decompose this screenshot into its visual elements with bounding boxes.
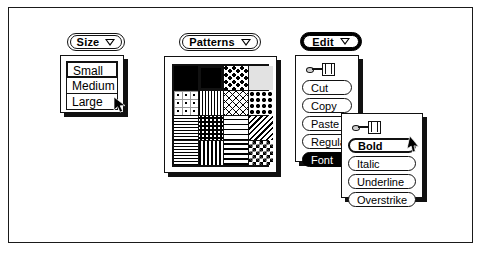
pattern-swatch-crosshatch[interactable]	[174, 116, 198, 140]
edit-menu-item-copy[interactable]: Copy	[302, 98, 352, 113]
pattern-swatch-boxed-dots[interactable]	[174, 91, 198, 115]
font-submenu-item-overstrike[interactable]: Overstrike	[348, 192, 416, 207]
pattern-swatch-solid-black[interactable]	[174, 66, 198, 90]
pattern-swatch-large-dots[interactable]	[249, 91, 273, 115]
pattern-swatch-vertical-lines[interactable]	[199, 91, 223, 115]
size-list-item-large[interactable]: Large	[66, 93, 118, 110]
pattern-swatch-checkerboard[interactable]	[249, 141, 273, 165]
chevron-down-icon	[241, 39, 251, 46]
chevron-down-icon	[340, 38, 350, 45]
pattern-swatch-dashed-texture[interactable]	[199, 141, 223, 165]
pushpin-icon[interactable]	[352, 120, 416, 133]
size-list-item-small[interactable]: Small	[66, 61, 118, 78]
size-list-item-medium[interactable]: Medium	[66, 77, 118, 94]
arrow-pointer-cursor-size	[113, 96, 127, 114]
pattern-swatch-light-gray[interactable]	[249, 66, 273, 90]
pattern-swatch-wave-texture[interactable]	[224, 66, 248, 90]
edit-menu-item-cut[interactable]: Cut	[302, 80, 352, 95]
font-submenu-item-underline[interactable]: Underline	[348, 174, 416, 189]
font-submenu-panel: Bold Italic Underline Overstrike	[341, 113, 423, 198]
pattern-swatch-grid[interactable]	[224, 141, 248, 165]
pattern-swatch-diagonal-lines[interactable]	[249, 116, 273, 140]
edit-popup-label: Edit	[312, 36, 334, 48]
screenshot-canvas: Size Small Medium Large Patterns	[0, 0, 483, 253]
pattern-swatch-chain-link[interactable]	[224, 91, 248, 115]
chevron-down-icon	[105, 39, 115, 46]
patterns-popup-label: Patterns	[189, 36, 235, 48]
edit-popup-button[interactable]: Edit	[300, 32, 362, 51]
pattern-swatch-horizontal-lines[interactable]	[174, 141, 198, 165]
patterns-grid[interactable]	[172, 64, 269, 167]
font-submenu-item-italic[interactable]: Italic	[348, 156, 416, 171]
size-popup-label: Size	[77, 36, 100, 48]
patterns-popup-button[interactable]: Patterns	[179, 33, 261, 51]
pushpin-icon[interactable]	[306, 62, 352, 75]
patterns-palette-panel	[164, 56, 277, 173]
size-popup-button[interactable]: Size	[67, 33, 125, 51]
pattern-swatch-solid-black-selected[interactable]	[199, 66, 223, 90]
pattern-swatch-dense-dots[interactable]	[199, 116, 223, 140]
pattern-swatch-brick[interactable]	[224, 116, 248, 140]
